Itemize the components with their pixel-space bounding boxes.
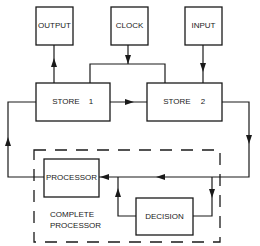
edge-store1-store2 [110,99,147,105]
arrow-up-icon [51,58,57,67]
block-diagram: OUTPUT CLOCK INPUT STORE 1 STORE 2 PROCE… [0,0,260,246]
edge-to-decision [193,177,215,216]
decision-label: DECISION [145,212,184,221]
output-node: OUTPUT [36,7,73,45]
store2-label: STORE [163,97,190,106]
decision-node: DECISION [136,198,193,235]
arrow-left-icon [100,174,109,180]
group-label-line2: PROCESSOR [50,221,101,230]
processor-label: PROCESSOR [46,173,97,182]
clock-label: CLOCK [116,21,144,30]
clock-node: CLOCK [111,7,148,45]
store2-node: STORE 2 [147,83,222,121]
output-label: OUTPUT [38,21,71,30]
store1-node: STORE 1 [36,83,110,121]
processor-node: PROCESSOR [44,159,99,197]
edge-decision-processor [115,177,136,216]
group-label-line1: COMPLETE [50,210,94,219]
arrow-left-icon [156,174,165,180]
store1-number: 1 [89,97,94,106]
store1-label: STORE [52,97,79,106]
edge-input-store2 [200,45,206,83]
arrow-down-icon [200,63,206,72]
arrow-up-icon [115,188,121,197]
arrow-up-icon [5,137,11,146]
input-node: INPUT [185,7,222,45]
input-label: INPUT [192,21,216,30]
arrow-right-icon [125,99,134,105]
arrow-down-icon [125,55,131,64]
arrow-down-icon [209,189,215,198]
edge-store1-output [51,45,57,83]
store2-number: 2 [201,97,206,106]
arrow-down-icon [246,135,252,144]
edge-clock-stores [90,45,165,83]
